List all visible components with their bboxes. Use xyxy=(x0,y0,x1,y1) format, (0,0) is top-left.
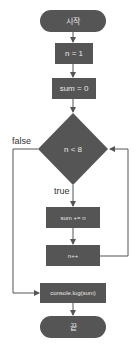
flowchart-canvas: 시작 n = 1 sum = 0 n < 8 sum += n n++ cons… xyxy=(0,0,139,346)
node-end-label: 끝 xyxy=(70,323,77,332)
node-init-n: n = 1 xyxy=(55,43,93,64)
node-increment: n++ xyxy=(46,245,100,266)
node-start-label: 시작 xyxy=(66,16,81,26)
edge-increment-loop-back xyxy=(100,149,128,256)
node-condition-label: n < 8 xyxy=(64,145,83,154)
node-start: 시작 xyxy=(40,10,106,32)
edge-label-false: false xyxy=(12,136,31,146)
node-output-label: console.log(sum) xyxy=(50,290,96,296)
node-output: console.log(sum) xyxy=(40,283,106,303)
node-add: sum += n xyxy=(46,207,100,228)
node-condition: n < 8 xyxy=(38,113,108,185)
edge-condition-false-to-output xyxy=(13,149,39,293)
node-init-n-label: n = 1 xyxy=(65,49,84,58)
edge-label-true: true xyxy=(54,186,70,196)
node-add-label: sum += n xyxy=(60,215,85,221)
node-init-sum-label: sum = 0 xyxy=(60,84,89,93)
node-increment-label: n++ xyxy=(68,253,79,259)
node-end: 끝 xyxy=(40,316,106,338)
node-init-sum: sum = 0 xyxy=(52,78,96,99)
